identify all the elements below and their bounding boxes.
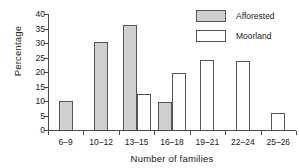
legend-item: Moorland [196, 29, 275, 43]
y-axis-tick-label: 5 [26, 112, 45, 120]
y-axis-tick-label: 0 [26, 126, 45, 134]
y-axis-tick-label: 40 [26, 10, 45, 18]
bar-chart: Percentage 0510152025303540 6–910–1213–1… [0, 0, 299, 168]
x-axis-tick [48, 131, 49, 135]
filled-gray-swatch [196, 10, 226, 22]
bar-moorland-6 [271, 113, 285, 131]
legend-item: Afforested [196, 9, 275, 23]
x-axis-tick-label: 22–24 [223, 138, 263, 147]
x-axis-tick [83, 131, 84, 135]
legend-item-label: Moorland [236, 31, 271, 41]
x-axis-title: Number of families [48, 153, 296, 164]
legend-item-label: Afforested [236, 11, 275, 21]
x-axis-tick [225, 131, 226, 135]
x-axis-tick-label: 16–18 [152, 138, 192, 147]
x-axis-tick-label: 10–12 [81, 138, 121, 147]
bar-afforested-0 [59, 101, 73, 131]
x-axis-tick [261, 131, 262, 135]
y-axis-tick-label: 15 [26, 83, 45, 91]
y-axis-tick-label: 10 [26, 97, 45, 105]
bar-afforested-3 [158, 102, 172, 131]
y-axis-tick-label: 35 [26, 25, 45, 33]
bar-moorland-3 [172, 73, 186, 131]
x-axis-tick-label: 13–15 [117, 138, 157, 147]
y-axis-tick-label: 25 [26, 54, 45, 62]
bar-moorland-5 [236, 61, 250, 131]
bar-moorland-2 [137, 94, 151, 131]
chart-legend: AfforestedMoorland [196, 9, 275, 49]
y-axis-tick-label: 30 [26, 39, 45, 47]
x-axis-tick-label: 19–21 [187, 138, 227, 147]
y-axis-title: Percentage [12, 6, 26, 96]
y-axis-tick-label: 20 [26, 68, 45, 76]
bar-moorland-4 [200, 60, 214, 131]
x-axis-tick [119, 131, 120, 135]
x-axis-tick [154, 131, 155, 135]
bar-afforested-1 [94, 42, 108, 131]
outline-white-swatch [196, 30, 226, 42]
x-axis-line [48, 130, 296, 131]
x-axis-tick [296, 131, 297, 135]
x-axis-tick [190, 131, 191, 135]
x-axis-tick-label: 25–26 [258, 138, 298, 147]
bar-afforested-2 [123, 25, 137, 131]
x-axis-tick-label: 6–9 [46, 138, 86, 147]
